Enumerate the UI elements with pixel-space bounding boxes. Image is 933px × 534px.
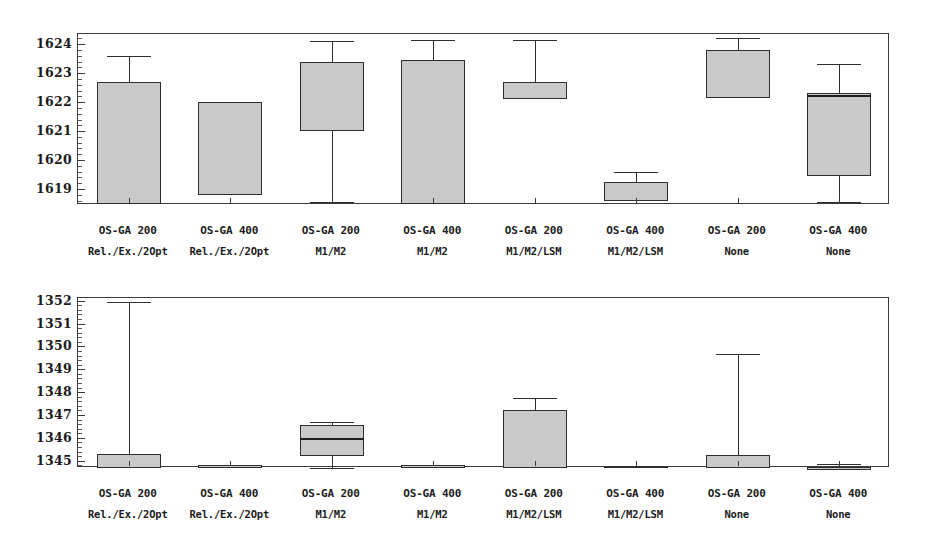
whisker-cap-upper	[817, 64, 861, 65]
category-label-line2: M1/M2/LSM	[608, 245, 663, 257]
y-tick-label: 1620	[36, 152, 72, 167]
category-label-line1: OS-GA 200	[505, 224, 563, 237]
category-label-line2: M1/M2/LSM	[506, 508, 561, 520]
y-tick-label: 1622	[36, 94, 72, 109]
category-label-line1: OS-GA 200	[708, 487, 766, 500]
x-tick	[839, 198, 840, 203]
category-label-line1: OS-GA 200	[99, 224, 157, 237]
y-tick-label: 1623	[36, 65, 72, 80]
category-label-line2: Rel./Ex./2Opt	[88, 508, 168, 520]
category-label-line1: OS-GA 200	[708, 224, 766, 237]
category-label-line1: OS-GA 400	[403, 224, 461, 237]
y-tick-label: 1349	[36, 361, 72, 376]
y-tick-label: 1345	[36, 452, 72, 467]
category-label-line1: OS-GA 400	[403, 487, 461, 500]
category-label-line2: M1/M2	[417, 508, 448, 520]
y-tick-label: 1619	[36, 181, 72, 196]
plot-area-bottom	[78, 298, 888, 466]
y-tick-label: 1624	[36, 36, 72, 51]
y-tick-label: 1350	[36, 338, 72, 353]
plot-frame-bottom	[77, 297, 889, 467]
y-tick-label: 1347	[36, 406, 72, 421]
box-plot-glyph	[78, 298, 888, 466]
y-tick-label: 1351	[36, 315, 72, 330]
category-label-line1: OS-GA 400	[809, 224, 867, 237]
category-label-line2: Rel./Ex./2Opt	[189, 245, 269, 257]
category-label-line2: None	[725, 245, 750, 257]
category-label-line1: OS-GA 400	[606, 224, 664, 237]
category-label-line2: M1/M2/LSM	[608, 508, 663, 520]
box-plot-glyph	[78, 34, 888, 203]
category-label-line1: OS-GA 200	[505, 487, 563, 500]
category-label-line1: OS-GA 400	[200, 487, 258, 500]
box-iqr	[604, 466, 668, 469]
y-tick-label: 1352	[36, 292, 72, 307]
y-tick-label: 1621	[36, 123, 72, 138]
whisker-cap-lower	[310, 468, 354, 469]
boxplot-panel-bottom: 13451346134713481349135013511352 OS-GA 2…	[0, 267, 933, 534]
category-label-line1: OS-GA 400	[606, 487, 664, 500]
category-label-line2: M1/M2	[315, 508, 346, 520]
category-label-line1: OS-GA 200	[302, 224, 360, 237]
boxplot-panel-top: 161916201621162216231624 OS-GA 200Rel./E…	[0, 0, 933, 267]
plot-frame-top	[77, 33, 889, 204]
plot-area-top	[78, 34, 888, 203]
y-tick-label: 1348	[36, 384, 72, 399]
y-tick-label: 1346	[36, 429, 72, 444]
category-label-line2: M1/M2/LSM	[506, 245, 561, 257]
category-label-line2: Rel./Ex./2Opt	[88, 245, 168, 257]
category-label-line1: OS-GA 400	[200, 224, 258, 237]
category-label-line1: OS-GA 200	[99, 487, 157, 500]
category-label-line1: OS-GA 200	[302, 487, 360, 500]
category-label-line2: Rel./Ex./2Opt	[189, 508, 269, 520]
box-iqr	[807, 93, 871, 176]
median-line	[807, 95, 871, 97]
x-tick	[839, 461, 840, 466]
category-label-line2: None	[826, 508, 851, 520]
category-label-line2: None	[725, 508, 750, 520]
category-label-line2: None	[826, 245, 851, 257]
box-iqr	[807, 467, 871, 470]
whisker-upper	[839, 64, 840, 93]
category-label-line2: M1/M2	[315, 245, 346, 257]
category-label-line1: OS-GA 400	[809, 487, 867, 500]
category-label-line2: M1/M2	[417, 245, 448, 257]
